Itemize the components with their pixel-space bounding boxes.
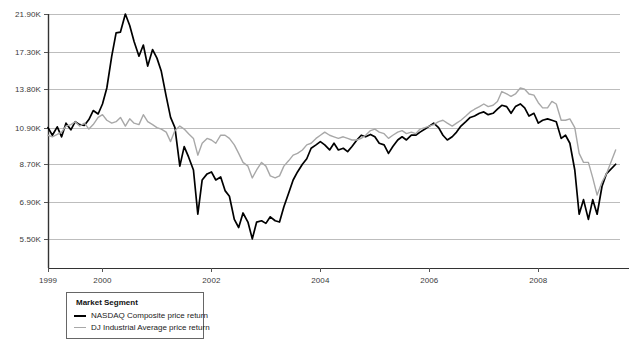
x-axis-tick-label: 2008 xyxy=(529,276,547,285)
x-axis-tick-label: 2006 xyxy=(420,276,438,285)
y-axis-tick-label: 8.70K xyxy=(0,160,41,169)
y-axis-tick-label: 13.80K xyxy=(0,85,41,94)
series-line-nasdaq xyxy=(48,14,616,239)
axis-ticks xyxy=(44,15,539,273)
x-axis-tick-label: 1999 xyxy=(39,276,57,285)
legend-line-swatch-dj xyxy=(74,327,86,328)
y-axis-tick-label: 21.90K xyxy=(0,10,41,19)
data-series xyxy=(48,14,616,239)
chart-legend: Market Segment NASDAQ Composite price re… xyxy=(66,292,204,339)
y-axis-tick-label: 17.30K xyxy=(0,48,41,57)
stock-index-line-chart: 21.90K17.30K13.80K10.90K8.70K6.90K5.50K … xyxy=(0,0,629,344)
x-axis-tick-label: 2002 xyxy=(202,276,220,285)
x-axis-tick-label: 2004 xyxy=(311,276,329,285)
series-line-dj xyxy=(48,88,616,195)
legend-line-swatch-nasdaq xyxy=(74,315,86,317)
y-axis-tick-label: 6.90K xyxy=(0,198,41,207)
legend-label-nasdaq: NASDAQ Composite price return xyxy=(91,311,208,320)
x-axis-tick-label: 2000 xyxy=(93,276,111,285)
y-axis-tick-label: 5.50K xyxy=(0,234,41,243)
legend-title: Market Segment xyxy=(76,298,196,307)
legend-item-nasdaq[interactable]: NASDAQ Composite price return xyxy=(74,311,196,320)
legend-item-dj[interactable]: DJ Industrial Average price return xyxy=(74,323,196,332)
gridlines xyxy=(48,15,620,240)
legend-label-dj: DJ Industrial Average price return xyxy=(91,323,210,332)
y-axis-tick-label: 10.90K xyxy=(0,123,41,132)
